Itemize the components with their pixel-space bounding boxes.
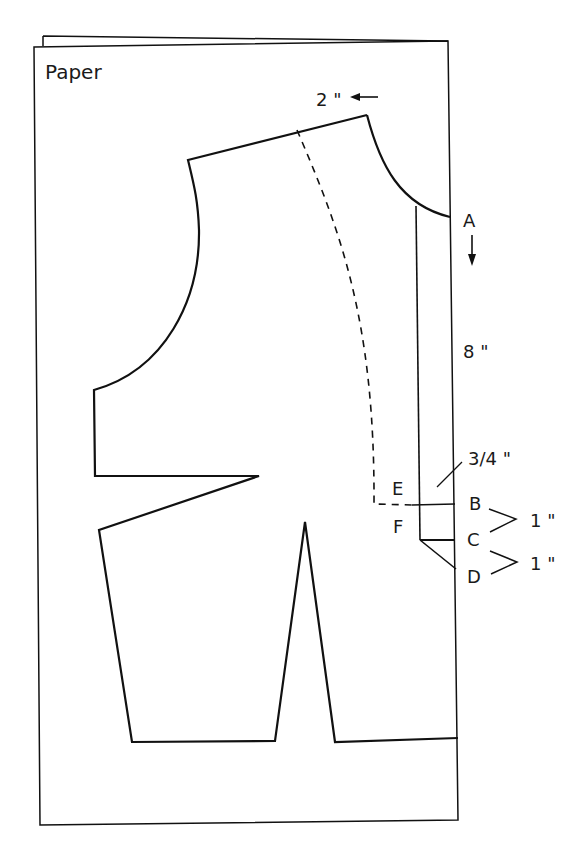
shoulder-shift-label: 2 "	[316, 89, 341, 110]
extension-b-line	[412, 504, 455, 505]
point-f-label: F	[393, 516, 403, 537]
point-b-label: B	[469, 493, 481, 514]
chevron-cd-icon	[490, 551, 517, 574]
point-e-label: E	[392, 478, 403, 499]
extension-line	[416, 206, 420, 540]
leader-line-3-4	[437, 462, 462, 487]
point-c-label: C	[467, 529, 480, 550]
extension-width-label: 3/4 "	[468, 448, 511, 469]
dashed-seam-line	[297, 130, 412, 505]
point-d-label: D	[467, 566, 481, 587]
arrow-left-head-icon	[350, 93, 360, 101]
paper-label: Paper	[45, 60, 102, 84]
b-to-c-label: 1 "	[530, 510, 555, 531]
arrow-down-head-icon	[468, 254, 476, 266]
bodice-outline	[94, 115, 458, 742]
pattern-diagram: Paper 2 " A 8 " 3/4 " E F B C D 1 " 1 "	[0, 0, 587, 857]
neckline-curve	[367, 115, 450, 217]
point-a-label: A	[463, 210, 476, 231]
extension-d-slant	[420, 540, 456, 569]
length-8-label: 8 "	[463, 341, 488, 362]
chevron-bc-icon	[489, 509, 516, 532]
c-to-d-label: 1 "	[530, 553, 555, 574]
paper-sheet-front	[34, 41, 458, 825]
